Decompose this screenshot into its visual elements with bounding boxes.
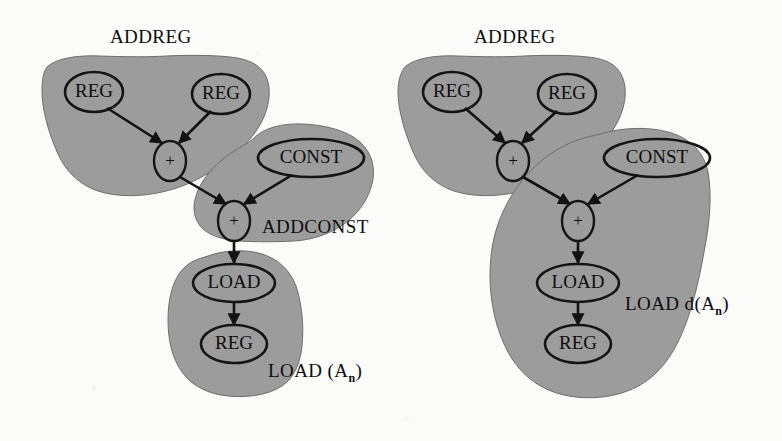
region-label-load-d-an-tail: ) [722, 293, 729, 315]
region-label-load-d-an-sub: n [715, 304, 722, 318]
node-reg-result-right-label: REG [559, 332, 597, 353]
node-plus-bottom-label: + [229, 211, 239, 230]
region-label-addreg-left: ADDREG [110, 26, 192, 47]
diagram-left: REG REG + CONST + LOAD [42, 26, 374, 397]
region-label-addreg-right: ADDREG [474, 26, 556, 47]
node-load-right-label: LOAD [552, 271, 605, 292]
diagram-svg: REG REG + CONST + LOAD [0, 0, 782, 441]
node-reg-left-label: REG [75, 80, 113, 101]
node-reg-result-label: REG [215, 332, 253, 353]
region-label-load-an-tail: ) [355, 360, 362, 382]
node-reg-right-right-label: REG [548, 82, 586, 103]
figure-canvas: REG REG + CONST + LOAD [0, 0, 782, 441]
region-label-addconst: ADDCONST [262, 216, 369, 237]
node-plus-top-label: + [165, 151, 175, 170]
region-label-load-an-sub: n [348, 371, 355, 385]
node-const-label: CONST [280, 146, 343, 167]
region-label-load-an-main: LOAD (A [268, 360, 348, 382]
node-plus-bottom-right-label: + [573, 211, 583, 230]
node-load-label: LOAD [208, 271, 261, 292]
node-const-right-label: CONST [626, 146, 689, 167]
node-reg-right-label: REG [202, 82, 240, 103]
region-label-load-d-an-main: LOAD d(A [625, 293, 715, 315]
node-plus-top-right-label: + [508, 151, 518, 170]
node-reg-left-right-label: REG [433, 80, 471, 101]
diagram-right: REG REG + CONST + LOAD [398, 26, 729, 398]
